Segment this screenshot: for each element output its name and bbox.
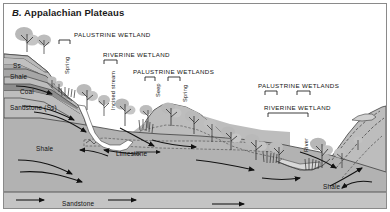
label-spring-1: Spring [64, 57, 70, 74]
label-river: River [303, 138, 309, 152]
label-stratum-limestone: Limestone [116, 150, 147, 157]
label-stratum-shale-main: Shale [36, 145, 53, 152]
label-riverine-wetland-1: RIVERINE WETLAND [103, 51, 170, 58]
label-riverine-wetland-2: RIVERINE WETLAND [264, 104, 331, 111]
label-stratum-sandstone-base: Sandstone [62, 200, 94, 207]
label-palustrine-wetland-1: PALUSTRINE WETLAND [74, 31, 151, 38]
label-stratum-shale-right: Shale [323, 183, 340, 190]
panel-letter: B. [12, 7, 22, 18]
figure-panel: B. Appalachian Plateaus PALUSTRINE WETLA… [0, 0, 390, 212]
cross-section-illustration [0, 0, 390, 212]
label-seep: Seep [155, 83, 161, 97]
label-stratum-sandstone-upper: Sandstone (Ss) [10, 104, 57, 111]
label-stratum-ss-top: Ss [13, 62, 21, 69]
label-palustrine-wetlands-3: PALUSTRINE WETLANDS [258, 82, 339, 89]
panel-title-text: Appalachian Plateaus [24, 7, 124, 18]
label-stratum-coal: Coal [20, 88, 34, 95]
panel-title: B. Appalachian Plateaus [12, 7, 124, 18]
label-palustrine-wetlands-2: PALUSTRINE WETLANDS [133, 68, 214, 75]
label-spring-2: Spring [182, 85, 188, 102]
label-stratum-shale-upper: Shale [10, 73, 27, 80]
label-incised-stream: Incised stream [110, 71, 116, 110]
